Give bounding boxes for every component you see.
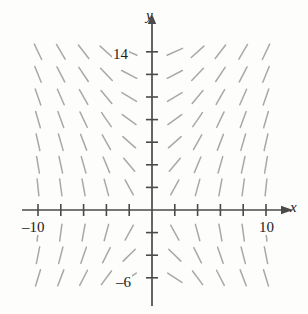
slope-segment (104, 224, 108, 240)
slope-segment (81, 134, 87, 150)
slope-segment (59, 247, 63, 263)
slope-segment (168, 273, 182, 282)
y-tick-label-bottom: –6 (115, 275, 132, 290)
slope-segment (102, 135, 110, 150)
slope-segment (58, 134, 63, 150)
slope-segment (37, 179, 39, 196)
slope-segment (123, 249, 135, 261)
slope-segment (242, 224, 244, 241)
slope-segment (82, 179, 85, 196)
slope-segment (36, 134, 40, 151)
slope-segment (262, 44, 269, 59)
slope-segment (59, 156, 63, 173)
slope-segment (241, 156, 245, 173)
slope-segment (57, 67, 65, 82)
slope-segment (217, 134, 223, 150)
slope-segment (265, 179, 267, 196)
y-tick-label-top: 14 (112, 47, 129, 62)
slope-segment (239, 44, 248, 59)
slope-segment (80, 270, 88, 285)
slope-segment (192, 90, 203, 103)
slope-segment (60, 224, 62, 241)
slope-segment (217, 112, 224, 127)
slope-segment (193, 135, 201, 150)
slope-segment (241, 247, 245, 263)
slope-segment (36, 111, 41, 127)
slope-segment (124, 158, 135, 171)
slope-segment (122, 93, 137, 102)
slope-segment (216, 90, 224, 105)
slope-segment (219, 224, 222, 241)
slope-segment (78, 45, 88, 58)
slope-segment (219, 179, 222, 196)
slope-segment (194, 157, 201, 173)
coordinate-axes (22, 14, 293, 306)
slope-segment (81, 247, 87, 263)
slope-segment (171, 180, 179, 195)
slope-segment (122, 70, 137, 78)
slope-segment (102, 113, 112, 127)
slope-segment (218, 157, 223, 173)
slope-segment (35, 67, 41, 83)
slope-segment (103, 248, 111, 263)
slope-segment (191, 46, 204, 57)
slope-segment (168, 115, 182, 125)
slope-segment (125, 180, 133, 195)
slope-segment (36, 270, 41, 286)
slope-segment (104, 179, 108, 195)
slope-segment (192, 68, 204, 80)
slope-segment (82, 224, 85, 241)
slope-segment (169, 158, 180, 171)
slope-segment (103, 157, 110, 173)
slope-segment (240, 270, 246, 286)
slope-segment (60, 179, 62, 196)
slope-segment (240, 89, 247, 105)
slope-segment (263, 67, 269, 83)
slope-segment (239, 67, 247, 82)
slope-segment (218, 247, 224, 263)
slope-field-plot (0, 0, 308, 314)
slope-segment (215, 45, 225, 58)
slope-segment (123, 137, 136, 148)
slope-segment (56, 44, 65, 59)
slope-segment (80, 112, 87, 127)
slope-segment (101, 68, 113, 80)
slope-segment (169, 249, 181, 261)
slope-segment (167, 70, 182, 78)
slope-segment (101, 90, 112, 103)
slope-segment (57, 89, 64, 105)
slope-segment (79, 67, 88, 81)
y-axis-label: y (146, 8, 153, 23)
slope-segment (193, 271, 203, 285)
slope-segment (125, 225, 133, 240)
slope-segment (240, 112, 246, 128)
slope-segment (101, 271, 111, 285)
slope-segment (58, 112, 64, 128)
x-tick-label-left: –10 (21, 220, 46, 235)
slope-segment (36, 247, 39, 264)
slope-segment (79, 90, 87, 105)
slope-segment (122, 115, 136, 125)
x-axis-label: x (290, 200, 297, 215)
slope-segment (195, 179, 199, 195)
slope-segment (195, 224, 199, 240)
slope-segment (167, 48, 183, 55)
slope-segment (193, 113, 203, 127)
slope-segment (264, 111, 269, 127)
slope-segment (241, 134, 246, 150)
slope-segment (100, 46, 113, 57)
slope-segment (168, 93, 183, 102)
slope-segment (242, 179, 244, 196)
slope-segment (216, 67, 225, 81)
slope-segment (35, 89, 41, 105)
slope-segment (194, 248, 202, 263)
slope-segment (263, 89, 269, 105)
slope-segment (168, 137, 181, 148)
slope-segment (265, 156, 268, 173)
slope-segment (264, 270, 269, 286)
slope-segment (37, 156, 40, 173)
slope-segment (81, 157, 86, 173)
slope-segment (217, 270, 225, 285)
slope-segment (171, 225, 179, 240)
x-tick-label-right: 10 (258, 220, 275, 235)
